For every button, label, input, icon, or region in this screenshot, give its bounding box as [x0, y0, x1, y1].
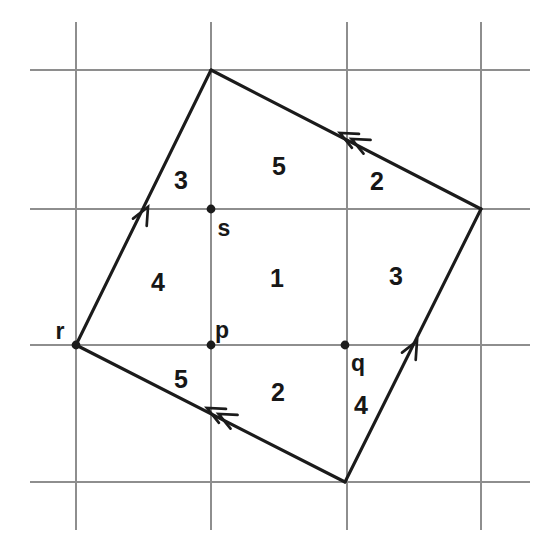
region-4-middle-left: 4 [151, 268, 165, 297]
region-5-lower-left: 5 [174, 365, 188, 394]
point-label-p: p [215, 317, 229, 344]
region-2-lower-middle: 2 [271, 378, 285, 407]
edge-left-to-top [76, 70, 211, 345]
point-label-r: r [56, 318, 65, 345]
region-2-upper-right: 2 [370, 167, 384, 196]
region-4-lower-right: 4 [354, 391, 368, 420]
region-3-upper-left: 3 [174, 166, 188, 195]
region-3-middle-right: 3 [389, 262, 403, 291]
point-label-s: s [218, 215, 231, 242]
region-5-upper-middle: 5 [272, 152, 286, 181]
point-dot-q [341, 341, 350, 350]
geometry-figure: 352413524 rpqs [0, 0, 555, 556]
region-1-center: 1 [270, 264, 284, 293]
point-label-q: q [351, 350, 365, 377]
point-dot-r [72, 341, 81, 350]
point-dot-s [207, 205, 216, 214]
